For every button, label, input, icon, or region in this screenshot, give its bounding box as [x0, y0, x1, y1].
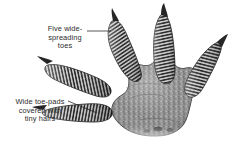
toe-outer-left: [37, 56, 111, 97]
toe-right: [185, 34, 228, 97]
annotation-five-wide-spreading-toes: Five wide- spreading toes: [36, 25, 94, 51]
toe-upper-left: [108, 8, 141, 82]
gecko-foot-artwork: [0, 0, 240, 146]
claw: [112, 8, 119, 21]
toe-upper-right: [154, 3, 175, 84]
claw: [37, 56, 53, 64]
figure-gecko-foot: Five wide- spreading toes Wide toe-pads …: [0, 0, 240, 146]
claw: [161, 3, 168, 17]
annotation-wide-toe-pads: Wide toe-pads covered with tiny hairs: [6, 98, 74, 124]
